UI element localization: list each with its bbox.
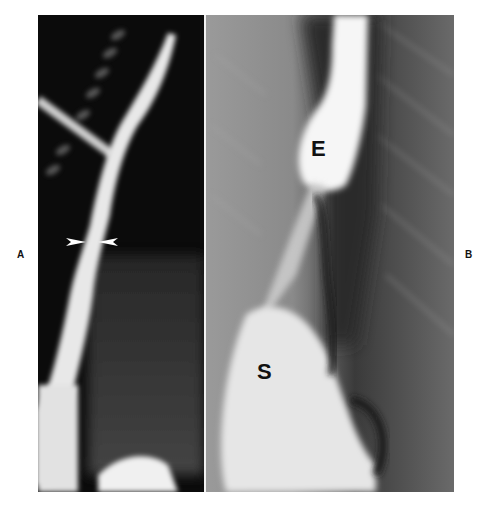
arrowhead-left-icon xyxy=(98,237,118,247)
radiograph-panel-a xyxy=(38,15,204,492)
panel-b-label: B xyxy=(465,249,472,260)
radiograph-b-image xyxy=(206,15,454,492)
esophagus-label: E xyxy=(311,136,326,162)
radiograph-a-image xyxy=(38,15,204,492)
stomach-label: S xyxy=(257,359,272,385)
panel-a-label: A xyxy=(17,249,24,260)
arrowhead-right-icon xyxy=(66,237,86,247)
radiograph-panel-b xyxy=(206,15,454,492)
